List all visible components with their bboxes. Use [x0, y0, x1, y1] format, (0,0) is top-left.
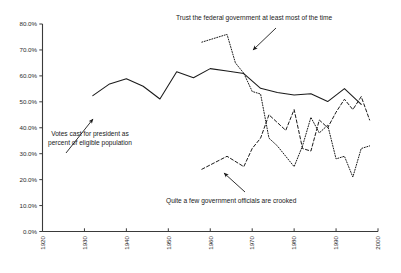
x-tick-label: 1960 [207, 235, 214, 249]
x-tick-label: 1930 [81, 235, 88, 249]
x-tick-label: 2000 [374, 235, 381, 249]
x-tick-label: 1980 [290, 235, 297, 249]
x-tick-label: 1970 [248, 235, 255, 249]
y-tick-label: 20.0% [19, 176, 37, 183]
y-tick-label: 80.0% [19, 20, 37, 27]
x-tick-label: 1950 [165, 235, 172, 249]
annotation-crooked: Quite a few government officials are cro… [166, 196, 296, 205]
chart-container: 0.0%10.0%20.0%30.0%40.0%50.0%60.0%70.0%8… [0, 0, 401, 273]
x-tick-label: 1920 [39, 235, 46, 249]
x-tick-label: 1940 [123, 235, 130, 249]
y-tick-label: 10.0% [19, 202, 37, 209]
y-tick-label: 50.0% [19, 98, 37, 105]
y-tick-label: 60.0% [19, 72, 37, 79]
y-tick-label: 40.0% [19, 124, 37, 131]
x-tick-label: 1990 [332, 235, 339, 249]
y-tick-label: 70.0% [19, 46, 37, 53]
y-tick-label: 0.0% [23, 228, 38, 235]
y-tick-label: 30.0% [19, 150, 37, 157]
annotation-votes: Votes cast for president as percent of e… [48, 129, 132, 147]
annotation-trust: Trust the federal government at least mo… [176, 13, 332, 22]
